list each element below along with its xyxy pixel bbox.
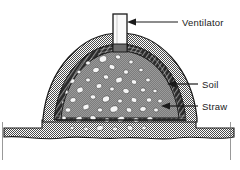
produce-stone: [158, 99, 163, 103]
produce-stone: [124, 70, 129, 74]
produce-stone: [65, 108, 71, 112]
label-straw: Straw: [202, 101, 227, 112]
label-soil: Soil: [202, 79, 219, 90]
diagram-figure: Ventilator Soil Straw: [0, 0, 240, 170]
produce-stone: [97, 108, 102, 112]
produce-stone: [146, 78, 151, 82]
produce-stone: [62, 116, 66, 120]
produce-stone: [86, 78, 91, 82]
produce-stone: [70, 126, 74, 130]
label-ventilator: Ventilator: [182, 17, 224, 28]
produce-stone: [140, 88, 145, 92]
produce-stone: [84, 127, 89, 131]
produce-stone: [110, 87, 115, 91]
produce-stone: [112, 127, 117, 131]
produce-stone: [139, 68, 143, 72]
produce-stone: [129, 60, 133, 64]
produce-stone: [154, 108, 159, 112]
produce-stone: [118, 99, 123, 103]
clamp-cross-section-svg: Ventilator Soil Straw: [0, 0, 240, 170]
produce-stone: [146, 98, 151, 102]
produce-stone: [142, 126, 147, 130]
ventilator-pipe-collar: [113, 44, 127, 52]
ventilator-pipe: [113, 14, 127, 52]
produce-stone: [153, 89, 157, 93]
